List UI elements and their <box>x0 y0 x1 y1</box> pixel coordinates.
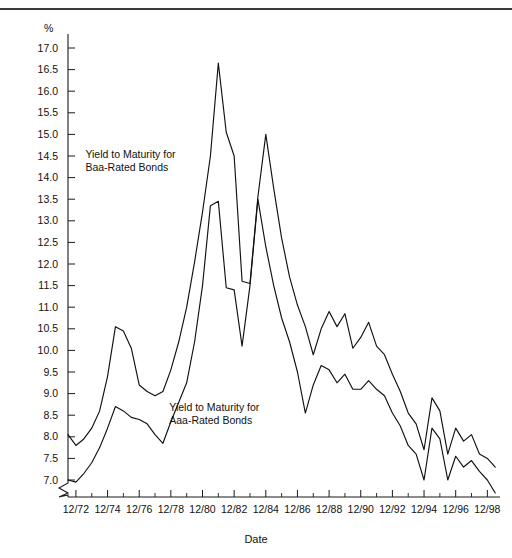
annotation-aaa-line2: Aaa-Rated Bonds <box>169 414 252 426</box>
y-axis-tick-label: 12.5 <box>38 236 59 248</box>
x-axis-tick-label: 12/98 <box>474 503 500 515</box>
y-axis-tick-label: 7.0 <box>43 474 58 486</box>
annotation-aaa-line1: Yield to Maturity for <box>169 401 260 413</box>
x-axis-tick-label: 12/78 <box>158 503 184 515</box>
y-axis-tick-label: 10.0 <box>38 344 59 356</box>
y-axis-tick-label: 12.0 <box>38 258 59 270</box>
x-axis-tick-label: 12/86 <box>284 503 310 515</box>
y-axis-tick-label: 15.5 <box>38 106 59 118</box>
y-axis-tick-label: 15.0 <box>38 128 59 140</box>
x-axis-label-group: 12/7212/7412/7612/7812/8012/8212/8412/86… <box>63 503 501 515</box>
y-axis-tick-label: 9.5 <box>43 366 58 378</box>
y-axis-tick-label: 14.5 <box>38 150 59 162</box>
x-axis-tick-label: 12/74 <box>94 503 120 515</box>
x-axis-tick-label: 12/90 <box>348 503 374 515</box>
annotation-baa-line2: Baa-Rated Bonds <box>85 161 168 173</box>
y-axis-tick-group <box>68 48 75 480</box>
y-axis-tick-label: 7.5 <box>43 452 58 464</box>
y-axis-tick-label: 8.0 <box>43 430 58 442</box>
x-axis-tick-label: 12/84 <box>253 503 279 515</box>
x-axis-tick-label: 12/88 <box>316 503 342 515</box>
x-axis-tick-group <box>76 490 487 497</box>
y-axis-tick-label: 11.0 <box>38 301 58 313</box>
x-axis-tick-label: 12/94 <box>411 503 437 515</box>
x-axis-tick-label: 12/72 <box>63 503 89 515</box>
yield-chart-container: 17.016.516.015.515.014.514.013.513.012.5… <box>0 0 512 558</box>
y-axis-tick-label: 17.0 <box>38 42 59 54</box>
x-axis-tick-label: 12/76 <box>126 503 152 515</box>
annotation-aaa: Yield to Maturity for Aaa-Rated Bonds <box>169 401 260 426</box>
y-axis-label-group: 17.016.516.015.515.014.514.013.513.012.5… <box>38 42 59 486</box>
series-line-baa <box>68 63 495 467</box>
annotation-baa-line1: Yield to Maturity for <box>85 148 176 160</box>
y-axis-tick-label: 8.5 <box>43 409 58 421</box>
y-axis-tick-label: 16.0 <box>38 85 59 97</box>
y-axis-break-symbol <box>59 480 68 497</box>
x-axis-tick-label: 12/82 <box>221 503 247 515</box>
annotation-baa: Yield to Maturity for Baa-Rated Bonds <box>85 148 176 173</box>
y-axis-tick-label: 14.0 <box>38 171 59 183</box>
y-axis-tick-label: 10.5 <box>38 322 59 334</box>
y-axis-tick-label: 9.0 <box>43 387 58 399</box>
series-line-aaa <box>68 199 495 493</box>
yield-to-maturity-line-chart: 17.016.516.015.515.014.514.013.513.012.5… <box>0 0 512 558</box>
y-axis-tick-label: 13.0 <box>38 214 59 226</box>
y-axis-unit-label: % <box>44 22 53 34</box>
x-axis-tick-label: 12/92 <box>379 503 405 515</box>
x-axis-tick-label: 12/96 <box>443 503 469 515</box>
x-axis-tick-label: 12/80 <box>189 503 215 515</box>
x-axis-title: Date <box>244 533 267 545</box>
y-axis-tick-label: 11.5 <box>38 279 58 291</box>
y-axis-tick-label: 16.5 <box>38 63 59 75</box>
y-axis-tick-label: 13.5 <box>38 193 59 205</box>
